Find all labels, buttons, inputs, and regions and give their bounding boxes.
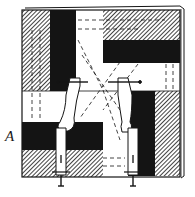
panel-clamp-illustration [0, 0, 195, 197]
panel-blocks [22, 10, 180, 178]
figure-label: A [5, 128, 14, 145]
